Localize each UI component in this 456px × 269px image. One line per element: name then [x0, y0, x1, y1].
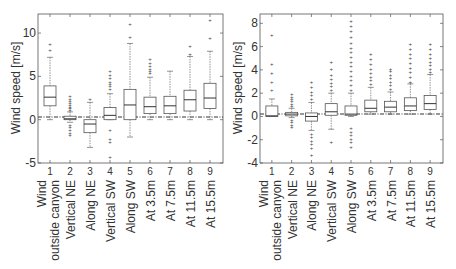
outlier-marker: + [310, 152, 314, 158]
outlier-marker: + [369, 56, 373, 62]
outlier-marker: + [128, 21, 132, 27]
box-5: +++++++++++++++++++++ [345, 18, 357, 150]
y-tick-label: 4 [251, 63, 258, 77]
category-label: At 11.5m [404, 180, 418, 227]
y-tick-label: -4 [247, 156, 258, 170]
category-label: At 7.5m [164, 180, 178, 221]
box-2: +++++++++++++ [64, 93, 76, 138]
x-tick-label: 7 [388, 166, 394, 177]
category-label: Along SW [124, 179, 138, 233]
box-3: +++++++++++ [305, 79, 317, 158]
box-1: ++ [44, 41, 56, 119]
y-tick-label: 0 [251, 109, 258, 123]
outlier-marker: + [188, 43, 192, 49]
outlier-marker: + [310, 145, 314, 151]
outlier-marker: + [369, 51, 373, 57]
box-8: +++++++++ [404, 41, 416, 114]
category-label: At 15.5m [424, 180, 438, 228]
y-tick-label: 5 [29, 69, 36, 83]
box-1: +++++ [266, 32, 278, 116]
category-label: Wind [35, 180, 49, 207]
y-tick-label: -5 [25, 156, 36, 170]
x-tick-label: 1 [269, 166, 275, 177]
box-5: ++ [124, 21, 136, 137]
outlier-marker: + [88, 96, 92, 102]
outlier-marker: + [188, 51, 192, 57]
y-tick-label: 0 [29, 113, 36, 127]
category-label: At 11.5m [184, 180, 198, 227]
outlier-marker: + [270, 79, 274, 85]
category-label: Along NE [84, 180, 98, 231]
x-tick-label: 8 [187, 166, 193, 177]
outlier-marker: + [48, 47, 52, 53]
outlier-marker: + [270, 70, 274, 76]
outlier-marker: + [409, 41, 413, 47]
box-4: +++++++++++ [104, 68, 116, 160]
box-3: + [84, 96, 96, 148]
category-label: At 3.5m [365, 180, 379, 221]
x-tick-label: 2 [67, 166, 73, 177]
x-tick-label: 5 [127, 166, 133, 177]
x-tick-label: 3 [309, 166, 315, 177]
outlier-marker: + [310, 84, 314, 90]
outlier-marker: + [270, 32, 274, 38]
category-label: Along NE [305, 180, 319, 231]
x-tick-label: 4 [328, 166, 334, 177]
outlier-marker: + [349, 18, 353, 24]
outlier-marker: + [290, 124, 294, 130]
box-2: ++++++++++ [286, 91, 298, 130]
outlier-marker: + [349, 144, 353, 150]
box-4: ++++++++ [325, 59, 337, 145]
outlier-marker: + [68, 132, 72, 138]
x-tick-label: 9 [427, 166, 433, 177]
y-tick-label: 2 [251, 86, 258, 100]
boxplot-figure: -50510Wind speed [m/s]++1+++++++++++++2+… [0, 0, 456, 269]
outlier-marker: + [108, 127, 112, 133]
y-axis-label: Wind speed [m/s] [9, 42, 23, 135]
x-tick-label: 6 [147, 166, 153, 177]
outlier-marker: + [349, 28, 353, 34]
outlier-marker: + [428, 41, 432, 47]
outlier-marker: + [208, 17, 212, 23]
outlier-marker: + [349, 34, 353, 40]
category-label: Vertical SW [325, 179, 339, 242]
category-label: At 15.5m [204, 180, 218, 228]
outlier-marker: + [68, 93, 72, 99]
category-label: Vertical NE [64, 180, 78, 239]
outlier-marker: + [270, 61, 274, 67]
outlier-marker: + [128, 34, 132, 40]
outlier-marker: + [208, 35, 212, 41]
y-tick-label: -2 [247, 133, 258, 147]
category-label: outside canyon [270, 180, 284, 261]
category-label: At 7.5m [385, 180, 399, 221]
boxplot-panel-1: -50510Wind speed [m/s]++1+++++++++++++2+… [9, 14, 223, 261]
outlier-marker: + [349, 40, 353, 46]
x-tick-label: 6 [368, 166, 374, 177]
outlier-marker: + [329, 139, 333, 145]
y-axis-label: Wind speed [m/s] [231, 42, 245, 135]
category-label: outside canyon [48, 180, 62, 261]
outlier-marker: + [48, 41, 52, 47]
outlier-marker: + [329, 72, 333, 78]
outlier-marker: + [108, 139, 112, 145]
x-tick-label: 2 [289, 166, 295, 177]
x-tick-label: 9 [207, 166, 213, 177]
category-label: Vertical NE [286, 180, 300, 239]
outlier-marker: + [389, 66, 393, 72]
y-tick-label: 10 [23, 26, 37, 40]
category-label: Vertical SW [104, 179, 118, 242]
outlier-marker: + [329, 59, 333, 65]
category-label: Wind [257, 180, 271, 207]
y-tick-label: 8 [251, 16, 258, 30]
x-tick-label: 7 [167, 166, 173, 177]
outlier-marker: + [108, 154, 112, 160]
x-tick-label: 3 [87, 166, 93, 177]
box-6: ++++++++ [365, 51, 377, 115]
category-label: Along SW [345, 179, 359, 233]
outlier-marker: + [270, 87, 274, 93]
box-7: +++++++ [385, 66, 397, 114]
x-tick-label: 8 [408, 166, 414, 177]
outlier-marker: + [108, 68, 112, 74]
x-tick-label: 1 [47, 166, 53, 177]
box-7 [164, 71, 176, 120]
